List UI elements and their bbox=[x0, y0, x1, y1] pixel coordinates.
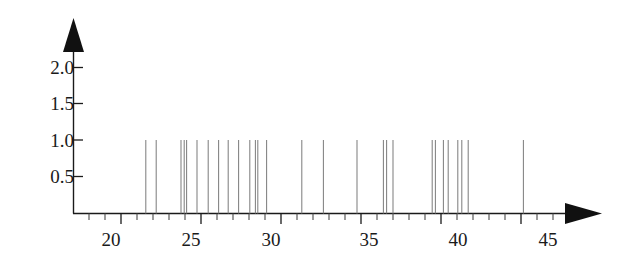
x-minor-ticks bbox=[89, 214, 553, 221]
y-tick-label-1-5: 1.5 bbox=[50, 94, 74, 113]
plot-canvas bbox=[0, 0, 622, 257]
y-major-ticks bbox=[74, 68, 84, 177]
x-tick-label-30: 30 bbox=[262, 230, 281, 249]
spike-plot-figure: 2.0 1.5 1.0 0.5 20 25 30 35 40 45 bbox=[0, 0, 622, 257]
data-spikes bbox=[146, 140, 524, 214]
x-tick-label-45: 45 bbox=[539, 230, 558, 249]
y-tick-label-2-0: 2.0 bbox=[50, 58, 74, 77]
x-tick-label-40: 40 bbox=[449, 230, 468, 249]
y-tick-label-0-5: 0.5 bbox=[50, 167, 74, 186]
arrow-up-icon bbox=[63, 18, 84, 52]
x-tick-label-25: 25 bbox=[182, 230, 201, 249]
y-tick-label-1-0: 1.0 bbox=[50, 131, 74, 150]
arrow-right-icon bbox=[565, 203, 602, 224]
x-tick-label-20: 20 bbox=[102, 230, 121, 249]
x-major-ticks bbox=[121, 214, 521, 225]
x-tick-label-35: 35 bbox=[360, 230, 379, 249]
